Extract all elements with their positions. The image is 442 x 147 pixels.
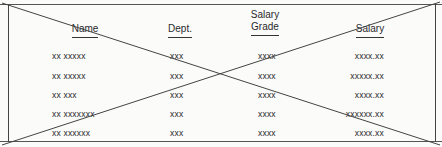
- cell-dept: xxx: [170, 90, 183, 100]
- cell-grade: xxxx: [258, 128, 276, 138]
- cell-salary: xxxxx.xx: [350, 71, 384, 81]
- cell-grade: xxxx: [258, 90, 276, 100]
- cell-name: xx xxxxxxx: [52, 109, 95, 119]
- cell-salary: xxxxxx.xx: [346, 109, 384, 119]
- cell-dept: xxx: [170, 109, 183, 119]
- cell-dept: xxx: [170, 71, 183, 81]
- cell-grade: xxxx: [258, 109, 276, 119]
- header-dept: Dept.: [155, 23, 205, 38]
- cell-name: xx xxxxx: [52, 71, 86, 81]
- cell-dept: xxx: [170, 128, 183, 138]
- cell-dept: xxx: [170, 51, 183, 61]
- cell-name: xx xxxxxx: [52, 128, 90, 138]
- cell-salary: xxxx.xx: [355, 128, 384, 138]
- header-salary-grade: Salary Grade: [235, 9, 295, 36]
- cell-grade: xxxx: [258, 71, 276, 81]
- header-name: Name: [60, 23, 110, 38]
- cell-name: xx xxxxx: [52, 51, 86, 61]
- cell-grade: xxxx: [258, 51, 276, 61]
- cell-name: xx xxx: [52, 90, 77, 100]
- cell-salary: xxxx.xx: [355, 51, 384, 61]
- cell-salary: xxxx.xx: [355, 90, 384, 100]
- header-salary: Salary: [340, 23, 400, 38]
